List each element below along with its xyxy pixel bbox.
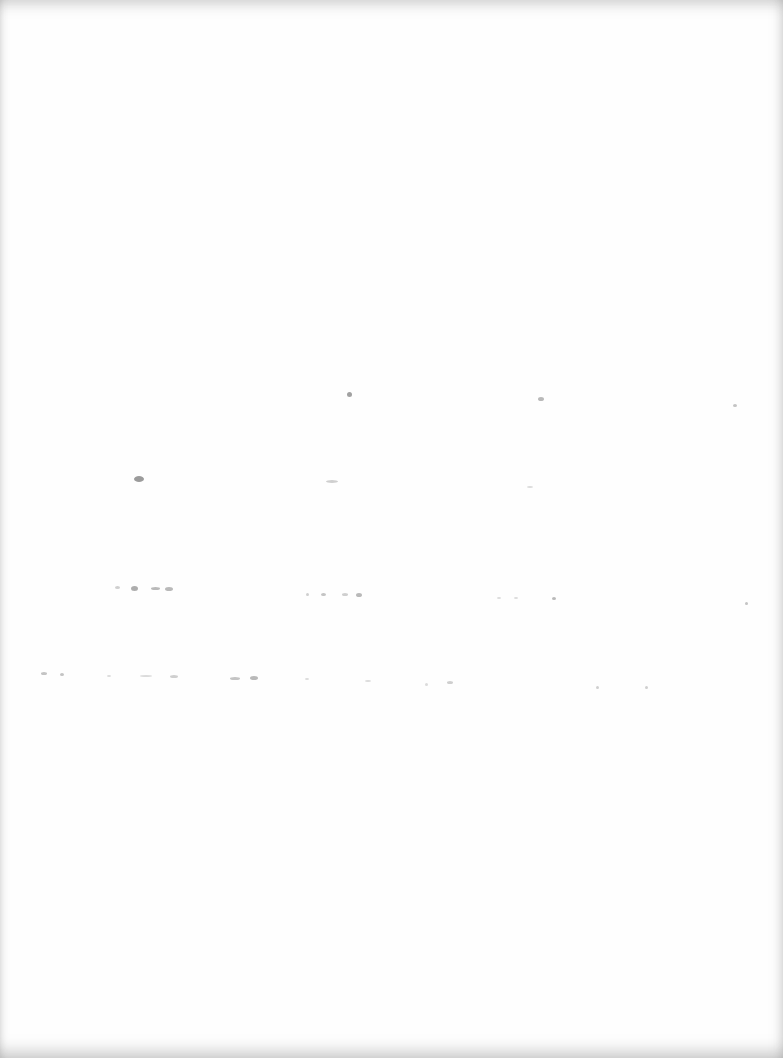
- ink-speck: [306, 593, 309, 596]
- ink-speck: [514, 597, 518, 599]
- ink-speck: [645, 686, 648, 689]
- ink-speck: [140, 675, 152, 677]
- ink-speck: [497, 597, 501, 599]
- ink-speck: [527, 486, 533, 488]
- ink-speck: [321, 593, 326, 596]
- scanned-page: [0, 0, 783, 1058]
- ink-speck: [552, 597, 556, 600]
- ink-speck: [165, 587, 173, 591]
- ink-speck: [115, 586, 120, 589]
- ink-speck: [347, 392, 352, 397]
- ink-speck: [41, 672, 47, 675]
- ink-speck: [447, 681, 453, 684]
- ink-speck: [326, 480, 338, 483]
- ink-speck: [60, 673, 64, 676]
- ink-speck: [425, 683, 428, 686]
- ink-speck: [230, 677, 240, 680]
- ink-speck: [342, 593, 348, 596]
- ink-speck: [365, 680, 371, 682]
- ink-speck: [745, 602, 748, 605]
- ink-speck: [170, 675, 178, 678]
- ink-speck: [305, 678, 309, 680]
- ink-speck: [250, 676, 258, 680]
- ink-speck: [131, 586, 138, 591]
- ink-speck: [538, 397, 544, 401]
- ink-speck: [107, 675, 111, 677]
- ink-speck: [134, 476, 144, 482]
- ink-speck: [733, 404, 737, 407]
- ink-speck: [596, 686, 599, 689]
- ink-speck: [151, 587, 160, 590]
- ink-speck: [356, 593, 362, 597]
